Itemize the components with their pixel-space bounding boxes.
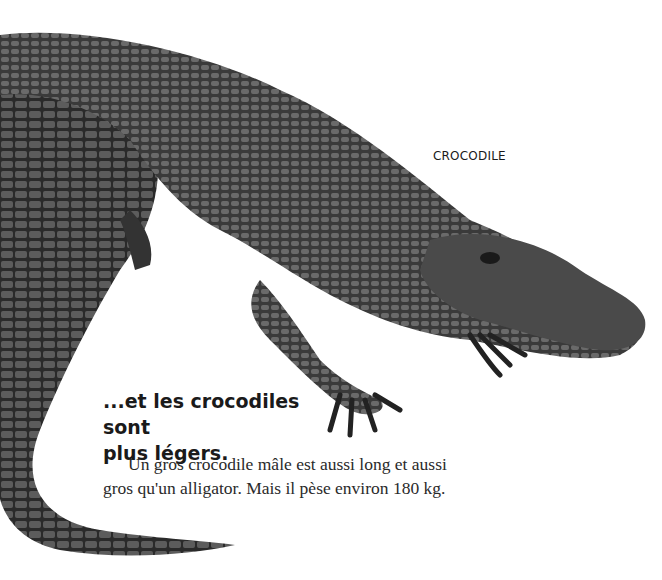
body-line-1: Un gros crocodile mâle est aussi long et… (103, 452, 483, 476)
body-line-2: gros qu'un alligator. Mais il pèse envir… (103, 476, 483, 500)
heading-line-1: ...et les crocodiles sont (103, 388, 343, 440)
body-paragraph: Un gros crocodile mâle est aussi long et… (103, 452, 483, 500)
body-line-1-text: Un gros crocodile mâle est aussi long et… (128, 454, 447, 474)
crocodile-label: CROCODILE (433, 149, 506, 163)
